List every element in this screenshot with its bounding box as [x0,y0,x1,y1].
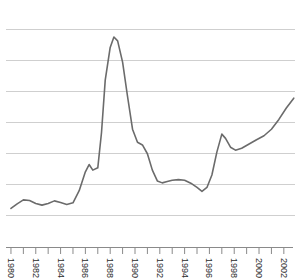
x-axis-tick-label: 1990 [130,258,140,278]
x-axis-tick-label: 1982 [31,258,41,278]
line-chart: 1980198219841986198819901992199419961998… [0,0,295,279]
chart-canvas: 1980198219841986198819901992199419961998… [0,0,295,279]
x-axis-tick-label: 1994 [180,258,190,278]
x-axis-tick-label: 1986 [80,258,90,278]
x-axis-tick-label: 1992 [155,258,165,278]
x-axis-tick-label: 1998 [229,258,239,278]
x-axis-tick-label: 1988 [105,258,115,278]
x-axis-tick-label: 2000 [254,258,264,278]
x-axis-tick-label: 1996 [204,258,214,278]
x-axis-tick-label: 1980 [6,258,16,278]
x-axis-tick-label: 2002 [279,258,289,278]
x-axis-tick-label: 1984 [56,258,66,278]
chart-background [0,0,295,279]
